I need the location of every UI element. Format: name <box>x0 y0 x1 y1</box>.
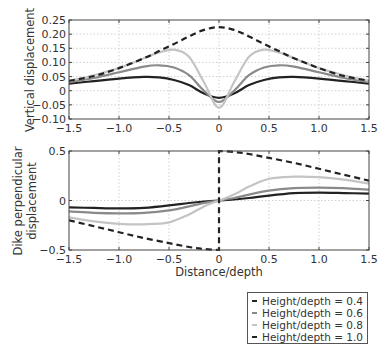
y-tick-label: 0.15 <box>42 42 67 55</box>
x-tick-label: 1.0 <box>310 253 328 266</box>
legend-label: Height/depth = 0.6 <box>262 307 363 319</box>
legend-line-solid-lightgray <box>252 324 257 326</box>
legend-entry: Height/depth = 0.6 <box>252 307 363 319</box>
y-tick-label: 0 <box>59 85 66 98</box>
y-tick-label: 0.20 <box>42 28 67 41</box>
y-tick-label: −0.5 <box>39 244 66 257</box>
legend-line-solid-black <box>252 300 257 302</box>
legend-label: Height/depth = 0.4 <box>262 295 363 307</box>
dike-perpendicular-displacement-plot: −1.5−1.0−0.500.51.01.5−0.500.5 <box>39 145 377 266</box>
x-tick-label: 1.0 <box>310 122 328 135</box>
x-tick-label: 1.5 <box>360 253 378 266</box>
y-tick-label: 0.25 <box>42 14 67 27</box>
legend-entry: Height/depth = 1.0 <box>252 331 363 343</box>
vertical-displacement-plot: −1.5−1.0−0.500.51.01.5−0.10−0.0500.050.1… <box>32 14 377 135</box>
x-tick-label: 1.5 <box>360 122 378 135</box>
x-tick-label: −1.0 <box>106 253 133 266</box>
x-tick-label: 0.5 <box>260 253 278 266</box>
x-tick-label: −1.0 <box>106 122 133 135</box>
y-tick-label: 0.10 <box>42 56 67 69</box>
legend-label: Height/depth = 0.8 <box>262 319 363 331</box>
legend-line-dashed-black <box>252 336 257 338</box>
x-tick-label: −0.5 <box>156 122 183 135</box>
legend-label: Height/depth = 1.0 <box>262 331 363 343</box>
legend-entry: Height/depth = 0.8 <box>252 319 363 331</box>
y-tick-label: 0 <box>59 195 66 208</box>
x-tick-label: 0.5 <box>260 122 278 135</box>
y-tick-label: 0.5 <box>49 145 67 158</box>
legend: Height/depth = 0.4 Height/depth = 0.6 He… <box>247 292 368 344</box>
legend-entry: Height/depth = 0.4 <box>252 295 363 307</box>
y-tick-label: −0.10 <box>32 113 66 126</box>
x-tick-label: 0 <box>216 122 223 135</box>
legend-line-solid-gray <box>252 312 257 314</box>
y-axis-label-bottom-line2: displacement <box>25 162 39 240</box>
y-tick-label: −0.05 <box>32 99 66 112</box>
y-axis-label-top: Vertical displacement <box>23 7 37 132</box>
y-axis-label-bottom-line1: Dike perpendicular <box>11 146 25 255</box>
y-tick-label: 0.05 <box>42 71 67 84</box>
x-axis-label: Distance/depth <box>175 265 263 279</box>
